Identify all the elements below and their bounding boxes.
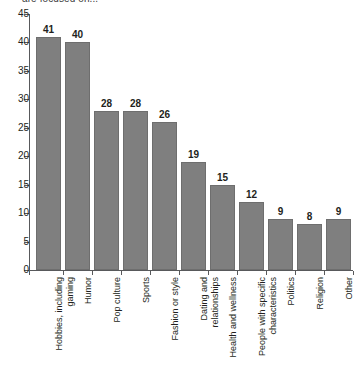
x-axis-category-label: Fashion or style [170,277,181,372]
y-axis-tick: 40 [0,42,29,43]
x-axis-category-label: Pop culture [112,277,123,372]
x-axis-tick-mark [353,271,354,275]
y-axis-tick: 20 [0,156,29,157]
y-axis-tick-label: 45 [9,9,29,19]
y-axis-tick-label: 10 [9,208,29,218]
category-label-line: Humor [83,277,94,372]
bar [123,111,148,270]
category-label-line: Dating and [199,277,210,372]
x-axis-category-label: Politics [286,277,297,372]
x-axis-category-label: Humor [83,277,94,372]
x-axis-category-label: Health and wellness [228,277,239,372]
x-axis-category-label: Dating andrelationships [199,277,220,372]
x-axis-tick-mark [150,271,151,275]
bar [210,185,235,270]
y-axis-line [29,14,30,271]
category-label-line: Religion [315,277,326,372]
bar-value-label: 40 [59,30,96,40]
category-label-line: relationships [209,277,220,372]
x-axis-tick-mark [92,271,93,275]
category-label-line: characteristics [267,277,278,372]
bar-value-label: 26 [146,110,183,120]
x-axis-tick-mark [324,271,325,275]
x-axis-category-label: Other [344,277,355,372]
bar [181,162,206,270]
bar-value-label: 15 [204,173,241,183]
y-axis-tick-label: 0 [9,265,29,275]
x-axis-tick-mark [179,271,180,275]
category-label-line: Other [344,277,355,372]
x-axis-category-label: Sports [141,277,152,372]
bar-value-label: 28 [117,99,154,109]
category-label-line: Sports [141,277,152,372]
y-axis-tick: 30 [0,99,29,100]
bar [94,111,119,270]
y-axis-tick-label: 20 [9,151,29,161]
category-label-line: Pop culture [112,277,123,372]
y-axis-tick: 35 [0,71,29,72]
x-axis-tick-mark [121,271,122,275]
bar-chart: are focused on... 454035302520151050 414… [0,0,362,373]
x-axis-category-label: Hobbies, includinggaming [54,277,75,372]
x-axis-line [29,270,353,271]
x-axis-tick-mark [295,271,296,275]
y-axis-tick: 0 [0,270,29,271]
y-axis-tick-label: 30 [9,94,29,104]
category-label-line: Fashion or style [170,277,181,372]
y-axis-tick-label: 5 [9,237,29,247]
y-axis-tick: 45 [0,14,29,15]
category-label-line: Politics [286,277,297,372]
bar [326,219,351,270]
x-axis-tick-mark [266,271,267,275]
bar [268,219,293,270]
x-axis-tick-mark [29,271,30,275]
y-axis-tick: 25 [0,128,29,129]
y-axis-tick: 10 [0,213,29,214]
x-axis-category-label: Religion [315,277,326,372]
bar-value-label: 19 [175,150,212,160]
x-axis-tick-mark [237,271,238,275]
bar-value-label: 12 [233,190,270,200]
bar [297,224,322,270]
x-axis-category-label: People with specificcharacteristics [257,277,278,372]
y-axis-tick-label: 25 [9,123,29,133]
category-label-line: Health and wellness [228,277,239,372]
y-axis-tick-label: 35 [9,66,29,76]
x-axis-tick-mark [63,271,64,275]
chart-headline: are focused on... [22,0,98,5]
x-axis-tick-mark [208,271,209,275]
bar [152,122,177,270]
y-axis-tick-label: 40 [9,37,29,47]
y-axis-tick-label: 15 [9,180,29,190]
category-label-line: Hobbies, including [54,277,65,372]
bar [239,202,264,270]
bar [65,42,90,270]
y-axis-tick: 15 [0,185,29,186]
bar-value-label: 9 [320,207,357,217]
bar [36,37,61,270]
category-label-line: gaming [64,277,75,372]
y-axis-tick: 5 [0,242,29,243]
category-label-line: People with specific [257,277,268,372]
